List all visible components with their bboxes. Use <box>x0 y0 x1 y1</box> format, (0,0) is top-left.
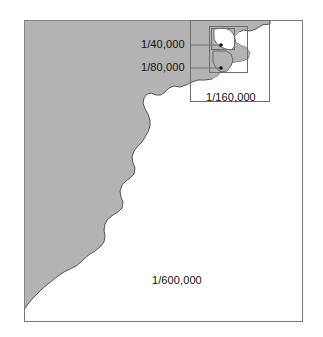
scale-label-600000: 1/600,000 <box>152 275 202 286</box>
map-canvas <box>0 0 323 337</box>
locator-dot-40000 <box>219 43 223 47</box>
nested-map-scale-diagram: 1/40,000 1/80,000 1/160,000 1/600,000 <box>0 0 323 337</box>
scale-label-80000: 1/80,000 <box>141 62 185 73</box>
scale-label-40000: 1/40,000 <box>141 39 185 50</box>
scale-label-160000: 1/160,000 <box>206 92 256 103</box>
locator-dot-80000 <box>219 66 223 70</box>
